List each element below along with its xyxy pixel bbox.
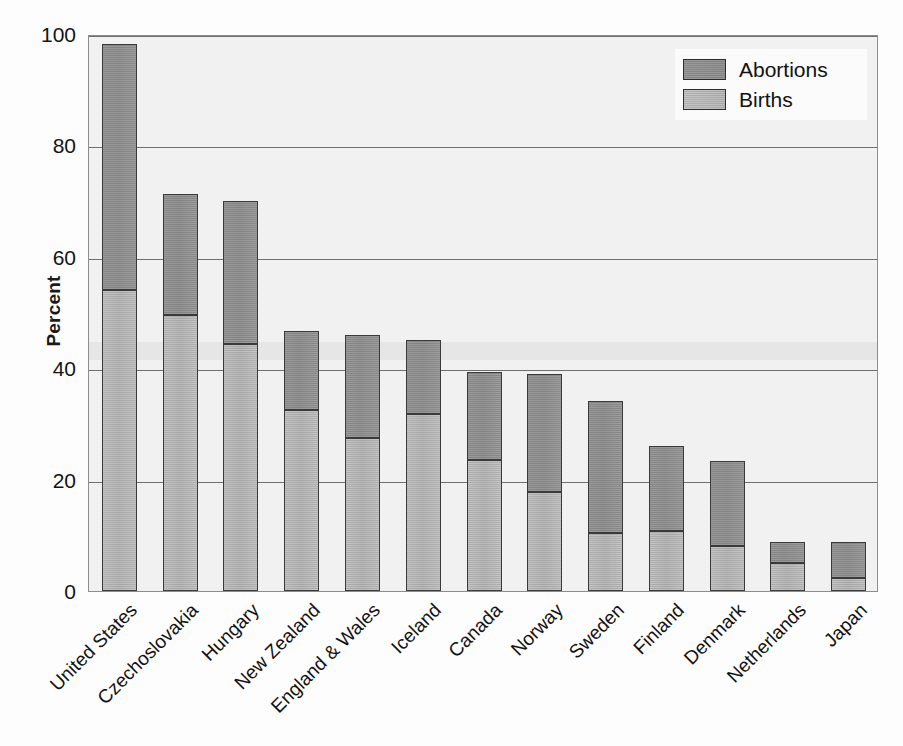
bar-segment-births[interactable] <box>831 578 866 591</box>
y-tick-label: 0 <box>18 581 76 602</box>
x-tick-label: Norway <box>506 600 566 660</box>
bar-segment-abortions[interactable] <box>588 401 623 533</box>
bar-segment-abortions[interactable] <box>831 542 866 578</box>
bar-segment-abortions[interactable] <box>770 542 805 563</box>
bar-japan[interactable] <box>831 542 866 591</box>
y-tick-label: 80 <box>18 135 76 156</box>
bar-netherlands[interactable] <box>770 542 805 591</box>
legend-item-abortions: Abortions <box>683 55 867 85</box>
bar-segment-births[interactable] <box>345 438 380 591</box>
bar-segment-abortions[interactable] <box>710 461 745 546</box>
bar-segment-abortions[interactable] <box>163 194 198 315</box>
legend-item-births: Births <box>683 85 867 115</box>
y-tick-label: 100 <box>18 24 76 45</box>
bar-segment-births[interactable] <box>284 410 319 591</box>
bar-segment-abortions[interactable] <box>284 331 319 410</box>
bar-segment-births[interactable] <box>163 315 198 591</box>
bar-segment-abortions[interactable] <box>223 201 258 345</box>
bar-finland[interactable] <box>649 446 684 591</box>
bar-segment-abortions[interactable] <box>527 374 562 492</box>
bar-segment-births[interactable] <box>770 563 805 591</box>
bar-segment-births[interactable] <box>649 531 684 591</box>
legend-label-abortions: Abortions <box>739 59 828 80</box>
bar-segment-births[interactable] <box>102 290 137 591</box>
chart-legend: Abortions Births <box>675 49 867 120</box>
bar-segment-abortions[interactable] <box>345 335 380 438</box>
x-tick-label: England & Wales <box>266 600 383 717</box>
y-axis-tick-labels: 100806040200 <box>14 0 76 746</box>
bar-united-states[interactable] <box>102 44 137 591</box>
bar-czechoslovakia[interactable] <box>163 194 198 591</box>
y-tick-label: 60 <box>18 247 76 268</box>
bar-iceland[interactable] <box>406 340 441 591</box>
bar-denmark[interactable] <box>710 461 745 591</box>
legend-swatch-births <box>683 89 726 110</box>
bar-norway[interactable] <box>527 374 562 591</box>
x-tick-label: Sweden <box>564 600 627 663</box>
y-tick-label: 40 <box>18 358 76 379</box>
x-tick-label: Japan <box>819 600 870 651</box>
chart-figure: Percent 100806040200 Abortions Births Un… <box>0 0 903 746</box>
bar-segment-births[interactable] <box>588 533 623 591</box>
x-tick-label: Canada <box>444 600 506 662</box>
bar-segment-abortions[interactable] <box>467 372 502 460</box>
bar-segment-births[interactable] <box>467 460 502 591</box>
x-tick-label: Finland <box>629 600 688 659</box>
bar-sweden[interactable] <box>588 401 623 591</box>
y-tick-label: 20 <box>18 470 76 491</box>
bar-segment-births[interactable] <box>223 344 258 591</box>
bar-new-zealand[interactable] <box>284 331 319 591</box>
bar-segment-abortions[interactable] <box>649 446 684 531</box>
bar-england-wales[interactable] <box>345 335 380 591</box>
bar-canada[interactable] <box>467 372 502 591</box>
bar-segment-births[interactable] <box>406 414 441 591</box>
bar-segment-births[interactable] <box>710 546 745 591</box>
bar-segment-abortions[interactable] <box>102 44 137 290</box>
bar-hungary[interactable] <box>223 201 258 591</box>
x-axis-tick-labels: United StatesCzechoslovakiaHungaryNew Ze… <box>88 592 878 746</box>
legend-label-births: Births <box>739 89 793 110</box>
bar-segment-abortions[interactable] <box>406 340 441 414</box>
x-tick-label: Iceland <box>386 600 444 658</box>
legend-swatch-abortions <box>683 59 726 80</box>
bar-segment-births[interactable] <box>527 492 562 591</box>
